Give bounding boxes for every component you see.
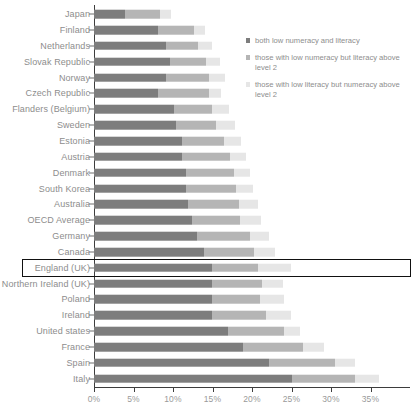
category-label-germany: Germany: [52, 231, 90, 241]
x-tick-3: [213, 387, 214, 392]
segment-low-literacy: [355, 374, 379, 383]
stacked-bar[interactable]: [94, 295, 284, 304]
segment-both-low: [94, 89, 158, 98]
bar-row: Northern Ireland (UK): [0, 276, 420, 290]
stacked-bar[interactable]: [94, 327, 300, 336]
segment-low-literacy: [303, 343, 324, 352]
bar-row: United states: [0, 324, 420, 338]
category-label-slovak-republic: Slovak Republic: [24, 57, 90, 67]
category-label-england-uk: England (UK): [35, 263, 90, 273]
x-tick-1: [134, 387, 135, 392]
segment-low-numeracy: [182, 137, 225, 146]
segment-low-literacy: [239, 200, 258, 209]
segment-low-literacy: [234, 168, 251, 177]
stacked-bar[interactable]: [94, 121, 235, 130]
segment-both-low: [94, 137, 182, 146]
stacked-bar[interactable]: [94, 359, 355, 368]
segment-low-literacy: [224, 137, 241, 146]
segment-low-literacy: [160, 10, 172, 19]
x-tick-2: [173, 387, 174, 392]
segment-low-literacy: [254, 248, 275, 257]
bar-row: Canada: [0, 245, 420, 259]
stacked-bar[interactable]: [94, 168, 250, 177]
bar-row: South Korea: [0, 181, 420, 195]
category-label-france: France: [61, 342, 90, 352]
stacked-bar[interactable]: [94, 184, 253, 193]
category-label-poland: Poland: [61, 294, 90, 304]
segment-low-literacy: [216, 121, 235, 130]
segment-both-low: [94, 105, 174, 114]
stacked-bar[interactable]: [94, 232, 269, 241]
x-tick-label-2: 10%: [164, 394, 182, 404]
x-tick-0: [94, 387, 95, 392]
stacked-bar[interactable]: [94, 153, 246, 162]
category-label-netherlands: Netherlands: [40, 41, 90, 51]
legend-item-literacy: those with low literacy but numeracy abo…: [246, 80, 416, 100]
category-label-norway: Norway: [59, 73, 90, 83]
stacked-bar[interactable]: [94, 374, 379, 383]
segment-low-numeracy: [292, 374, 354, 383]
segment-both-low: [94, 200, 188, 209]
stacked-bar[interactable]: [94, 216, 261, 225]
category-label-oecd-average: OECD Average: [27, 215, 90, 225]
category-label-canada: Canada: [58, 247, 90, 257]
segment-low-literacy: [209, 73, 226, 82]
bar-row: Germany: [0, 229, 420, 243]
x-tick-label-6: 30%: [322, 394, 340, 404]
x-tick-7: [371, 387, 372, 392]
stacked-bar[interactable]: [94, 57, 220, 66]
segment-low-literacy: [212, 105, 229, 114]
segment-both-low: [94, 295, 212, 304]
stacked-bar[interactable]: [94, 105, 229, 114]
segment-low-numeracy: [166, 42, 198, 51]
stacked-bar[interactable]: [94, 248, 275, 257]
bar-row: Denmark: [0, 166, 420, 180]
stacked-bar[interactable]: [94, 73, 225, 82]
bar-row: Japan: [0, 7, 420, 21]
segment-low-numeracy: [186, 184, 237, 193]
segment-low-numeracy: [212, 311, 267, 320]
stacked-bar[interactable]: [94, 343, 324, 352]
segment-low-numeracy: [188, 200, 239, 209]
stacked-bar[interactable]: [94, 89, 221, 98]
bar-row: England (UK): [0, 261, 420, 275]
category-label-south-korea: South Korea: [39, 184, 90, 194]
segment-low-numeracy: [212, 263, 259, 272]
category-label-japan: Japan: [65, 9, 90, 19]
legend-label-both: both low numeracy and literacy: [255, 36, 360, 45]
stacked-bar[interactable]: [94, 42, 212, 51]
bar-row: Estonia: [0, 134, 420, 148]
segment-low-literacy: [260, 295, 284, 304]
category-label-italy: Italy: [73, 374, 90, 384]
stacked-bar[interactable]: [94, 200, 258, 209]
segment-low-numeracy: [197, 232, 249, 241]
bar-row: Poland: [0, 292, 420, 306]
bar-row: Spain: [0, 356, 420, 370]
legend-swatch-literacy-icon: [246, 82, 250, 86]
segment-low-numeracy: [192, 216, 240, 225]
x-tick-6: [331, 387, 332, 392]
segment-low-numeracy: [158, 26, 194, 35]
stacked-bar-chart: 0%5%10%15%20%25%30%35% JapanFinlandNethe…: [0, 0, 420, 417]
segment-both-low: [94, 327, 228, 336]
stacked-bar[interactable]: [94, 263, 291, 272]
stacked-bar[interactable]: [94, 137, 241, 146]
segment-both-low: [94, 216, 192, 225]
stacked-bar[interactable]: [94, 26, 205, 35]
segment-low-literacy: [250, 232, 269, 241]
stacked-bar[interactable]: [94, 279, 283, 288]
segment-both-low: [94, 374, 292, 383]
stacked-bar[interactable]: [94, 311, 291, 320]
legend-swatch-both-icon: [246, 38, 250, 42]
bar-row: OECD Average: [0, 213, 420, 227]
bar-row: Italy: [0, 372, 420, 386]
category-label-ireland: Ireland: [62, 310, 90, 320]
category-label-austria: Austria: [61, 152, 90, 162]
segment-both-low: [94, 42, 166, 51]
bar-row: France: [0, 340, 420, 354]
category-label-flanders-belgium: Flanders (Belgium): [12, 104, 90, 114]
bar-row: Austria: [0, 150, 420, 164]
stacked-bar[interactable]: [94, 10, 171, 19]
legend-item-both: both low numeracy and literacy: [246, 36, 416, 46]
segment-low-literacy: [284, 327, 301, 336]
